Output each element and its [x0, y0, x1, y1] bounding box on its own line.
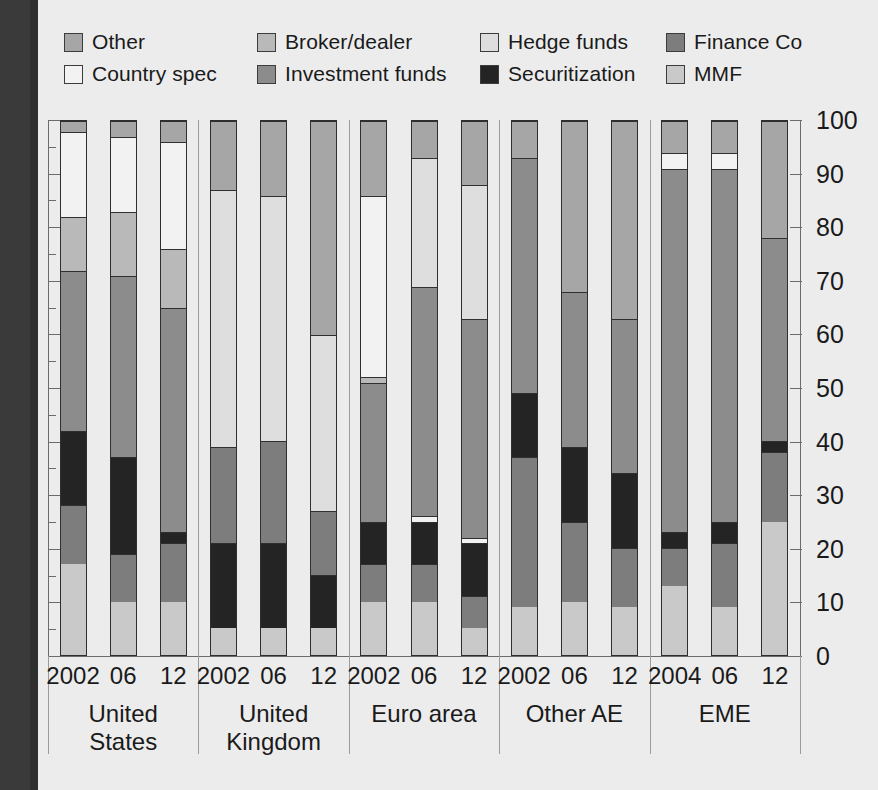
bar-segment-hedge_funds — [412, 158, 437, 286]
plot-area: 0102030405060708090100 — [48, 120, 800, 656]
stacked-bar[interactable] — [661, 120, 688, 656]
bar-segment-securitization — [412, 522, 437, 565]
y-axis-label: 100 — [816, 106, 858, 135]
bar-segment-securitization — [161, 532, 186, 543]
legend-item-other[interactable]: Other — [64, 30, 257, 54]
stacked-bar[interactable] — [310, 120, 337, 656]
y-tick-left — [48, 227, 60, 228]
stacked-bar[interactable] — [110, 120, 137, 656]
x-tick-label: 2002 — [197, 662, 250, 690]
group-separator — [349, 120, 350, 656]
bar-segment-country_spec — [161, 142, 186, 249]
bar-segment-finance_co — [61, 505, 86, 564]
stacked-bar[interactable] — [411, 120, 438, 656]
stacked-bar[interactable] — [260, 120, 287, 656]
y-axis-label: 0 — [816, 642, 830, 671]
stacked-bar[interactable] — [511, 120, 538, 656]
bar-segment-other — [612, 121, 637, 319]
bar-segment-mmf — [562, 602, 587, 655]
y-tick-left — [48, 442, 60, 443]
group-name-label: Other AE — [526, 700, 623, 728]
legend-item-securitization[interactable]: Securitization — [480, 62, 666, 86]
bar-segment-mmf — [61, 564, 86, 655]
stacked-bar[interactable] — [461, 120, 488, 656]
stacked-bar[interactable] — [160, 120, 187, 656]
stacked-bar[interactable] — [60, 120, 87, 656]
y-axis-label: 80 — [816, 213, 844, 242]
legend-item-country_spec[interactable]: Country spec — [64, 62, 257, 86]
bar-segment-securitization — [762, 441, 787, 452]
left-spine-decoration — [0, 0, 38, 790]
y-minor-tick — [48, 308, 56, 309]
bar-segment-country_spec — [361, 196, 386, 378]
legend-swatch-hedge_funds-icon — [480, 33, 499, 52]
legend-label: Other — [92, 30, 145, 54]
y-axis-label: 70 — [816, 266, 844, 295]
bar-segment-other — [61, 121, 86, 132]
group-separator — [198, 120, 199, 656]
bar-segment-hedge_funds — [261, 196, 286, 442]
y-minor-tick — [48, 468, 56, 469]
y-tick-right — [790, 442, 802, 443]
bar-segment-investment_funds — [61, 271, 86, 431]
bar-segment-country_spec — [712, 153, 737, 169]
y-minor-tick — [48, 629, 56, 630]
bar-segment-securitization — [311, 575, 336, 628]
group-separator-label — [800, 656, 801, 754]
bar-segment-securitization — [612, 473, 637, 548]
bar-segment-hedge_funds — [311, 335, 336, 511]
bar-segment-other — [412, 121, 437, 158]
bar-segment-broker_dealer — [111, 212, 136, 276]
group-name-label: EME — [699, 700, 751, 728]
legend-item-hedge_funds[interactable]: Hedge funds — [480, 30, 666, 54]
stacked-bar[interactable] — [761, 120, 788, 656]
y-tick-left — [48, 602, 60, 603]
bar-segment-other — [361, 121, 386, 196]
bar-segment-other — [762, 121, 787, 238]
stacked-bar[interactable] — [360, 120, 387, 656]
legend-item-investment_funds[interactable]: Investment funds — [257, 62, 480, 86]
stacked-bar[interactable] — [561, 120, 588, 656]
y-tick-left — [48, 388, 60, 389]
bar-segment-investment_funds — [712, 169, 737, 521]
legend-swatch-finance_co-icon — [666, 33, 685, 52]
y-minor-tick — [48, 522, 56, 523]
y-axis-label: 40 — [816, 427, 844, 456]
legend-item-mmf[interactable]: MMF — [666, 62, 846, 86]
stacked-bar[interactable] — [210, 120, 237, 656]
y-tick-left — [48, 281, 60, 282]
y-tick-right — [790, 495, 802, 496]
legend-item-finance_co[interactable]: Finance Co — [666, 30, 846, 54]
x-tick-label: 12 — [310, 662, 337, 690]
legend-item-broker_dealer[interactable]: Broker/dealer — [257, 30, 480, 54]
group-name-label: United Kingdom — [226, 700, 321, 757]
stacked-bar[interactable] — [611, 120, 638, 656]
bar-segment-securitization — [662, 532, 687, 548]
stacked-bar[interactable] — [711, 120, 738, 656]
bar-segment-broker_dealer — [61, 217, 86, 270]
bar-segment-finance_co — [311, 511, 336, 575]
bar-segment-securitization — [512, 393, 537, 457]
bar-segment-other — [462, 121, 487, 185]
bar-segment-securitization — [261, 543, 286, 628]
legend-label: MMF — [694, 62, 742, 86]
bar-segment-investment_funds — [662, 169, 687, 532]
y-minor-tick — [48, 361, 56, 362]
bar-segment-mmf — [412, 602, 437, 655]
legend-label: Securitization — [508, 62, 635, 86]
bar-segment-hedge_funds — [462, 185, 487, 319]
y-axis-label: 50 — [816, 374, 844, 403]
group-name-label: United States — [89, 700, 158, 757]
group-name-label: Euro area — [371, 700, 476, 728]
x-tick-label: 12 — [611, 662, 638, 690]
legend-swatch-other-icon — [64, 33, 83, 52]
left-spine-inner — [30, 0, 38, 790]
bar-segment-mmf — [512, 607, 537, 655]
y-tick-left — [48, 549, 60, 550]
bar-segment-other — [161, 121, 186, 142]
bar-segment-securitization — [562, 447, 587, 522]
bar-segment-mmf — [662, 586, 687, 655]
legend-label: Country spec — [92, 62, 217, 86]
bar-segment-broker_dealer — [161, 249, 186, 308]
x-tick-label: 2004 — [648, 662, 701, 690]
